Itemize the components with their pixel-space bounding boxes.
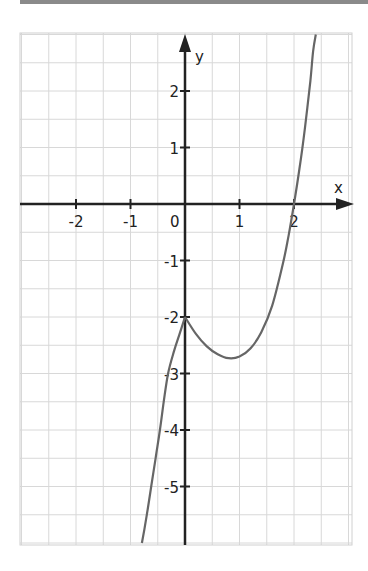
y-tick-label: -2 bbox=[164, 309, 179, 327]
y-axis-label: y bbox=[195, 48, 204, 66]
x-tick-label: 1 bbox=[235, 213, 245, 231]
axes: x y 0 bbox=[20, 34, 354, 545]
y-tick-label: -5 bbox=[164, 479, 179, 497]
y-tick-label: 2 bbox=[169, 83, 179, 101]
y-tick-label: 1 bbox=[169, 140, 179, 158]
y-axis-arrow bbox=[179, 34, 191, 52]
x-axis-arrow bbox=[336, 198, 354, 210]
curve-right-branch bbox=[185, 35, 316, 359]
origin-label: 0 bbox=[170, 213, 180, 231]
y-tick-label: -1 bbox=[164, 253, 179, 271]
x-tick-label: -2 bbox=[69, 213, 84, 231]
y-tick-label: -4 bbox=[164, 422, 179, 440]
x-axis-label: x bbox=[334, 179, 343, 197]
function-graph: x y 0 -2-11221-1-2-3-4-5 bbox=[0, 0, 368, 571]
x-tick-label: -1 bbox=[123, 213, 138, 231]
